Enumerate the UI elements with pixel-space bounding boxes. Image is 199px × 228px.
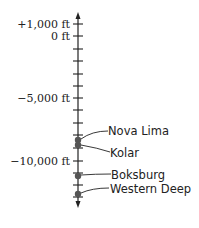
label-kolar: Kolar — [110, 146, 139, 160]
number-line-diagram: +1,000 ft 0 ft −5,000 ft −10,000 ft Nova… — [0, 0, 199, 228]
dot-kolar — [75, 142, 81, 148]
label-boksburg: Boksburg — [111, 168, 165, 182]
leader-lines — [81, 131, 111, 193]
dot-boksburg — [75, 173, 81, 179]
label-0: 0 ft — [51, 30, 71, 43]
label-nova-lima: Nova Lima — [108, 124, 169, 138]
arrow-up-icon — [76, 12, 81, 19]
label-western-deep: Western Deep — [110, 182, 191, 196]
label-minus-5000: −5,000 ft — [17, 92, 70, 105]
label-minus-10000: −10,000 ft — [10, 155, 70, 168]
dot-western-deep — [75, 191, 81, 197]
arrow-down-icon — [76, 201, 81, 208]
